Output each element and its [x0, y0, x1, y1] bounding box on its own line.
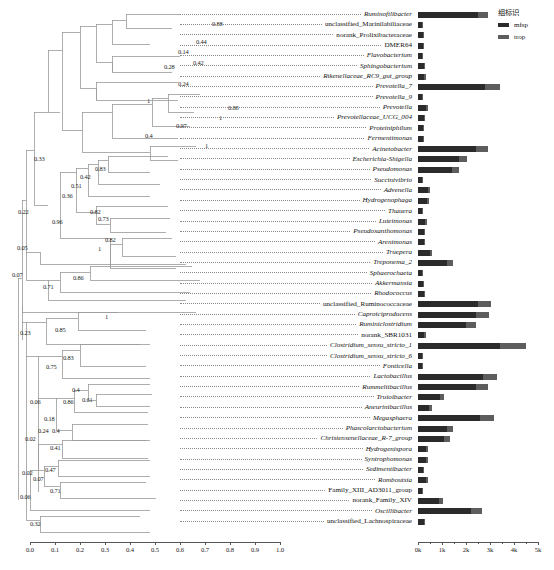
bar-segment-trop [423, 125, 424, 131]
tip-leader-line [180, 189, 381, 191]
bar-row [418, 464, 424, 475]
axis-tick [230, 542, 231, 545]
node-support-value: 0.51 [71, 183, 81, 189]
bar-row [418, 123, 424, 134]
tip-row: Rummeliibacillus [180, 382, 412, 393]
phylogenetic-tree-figure: 0.880.440.140.420.280.2410.8810.970.410.… [0, 0, 554, 570]
tip-leader-line [180, 417, 370, 419]
node-support-value: 0.07 [12, 272, 22, 278]
stacked-bar [418, 208, 423, 214]
bar-segment-mfsp [418, 477, 426, 483]
axis-tick [514, 542, 515, 545]
node-support-value: 1 [147, 98, 150, 104]
bar-segment-mfsp [418, 384, 476, 390]
tip-leader-line [180, 210, 385, 212]
tip-label: Succinivibrio [374, 177, 412, 184]
tip-label: DMER64 [384, 42, 412, 49]
bar-segment-trop [485, 84, 500, 90]
tip-label: Clostridium_sensu_stricto_6 [330, 353, 412, 360]
axis-tick-label: 0k [415, 546, 422, 553]
bar-segment-mfsp [418, 12, 478, 18]
stacked-bar [418, 291, 425, 297]
bar-segment-mfsp [418, 156, 459, 162]
tip-label: Ruminiclostridium [359, 321, 412, 328]
tip-label: Prevotella_7 [376, 83, 412, 90]
bar-row [418, 175, 423, 186]
tip-label: Aneurinibacillus [365, 404, 412, 411]
bar-segment-trop [500, 343, 526, 349]
node-support-value: 0.41 [50, 445, 60, 451]
bar-row [418, 247, 432, 258]
stacked-bar [418, 53, 423, 59]
bar-segment-trop [422, 208, 423, 214]
bar-segment-trop [440, 394, 445, 400]
bar-segment-trop [423, 281, 424, 287]
bar-row [418, 30, 424, 41]
axis-tick-label: 0.5 [151, 546, 159, 553]
stacked-bar [418, 374, 497, 380]
stacked-bar [418, 229, 425, 235]
bar-segment-trop [422, 94, 423, 100]
node-support-value: 0.96 [52, 219, 62, 225]
tip-label: Family_XIII_AD3011_group [328, 487, 412, 494]
stacked-bar [418, 457, 428, 463]
bar-segment-trop [476, 312, 489, 318]
tip-leader-line [180, 55, 364, 57]
tip-label: Sedimentibacter [366, 466, 412, 473]
bar-row [418, 195, 429, 206]
stacked-bar [418, 105, 428, 111]
tip-leader-line [180, 34, 333, 36]
node-support-value: 0.42 [80, 174, 90, 180]
tip-row: Sphingobacterium [180, 61, 412, 72]
tip-leader-line [180, 138, 364, 140]
stacked-bar [418, 426, 453, 432]
legend-item[interactable]: trop [498, 33, 554, 41]
tip-label: Proteiniphilum [369, 125, 412, 132]
stacked-bar [418, 508, 482, 514]
bar-segment-trop [459, 156, 468, 162]
bar-row [418, 309, 489, 320]
tip-label: Pseudoxanthomonas [353, 228, 412, 235]
tip-label: norank_Family_XIV [352, 497, 412, 504]
bar-segment-mfsp [418, 167, 452, 173]
axis-tick-label: 3k [487, 546, 494, 553]
bar-row [418, 216, 427, 227]
axis-tick-label: 0.9 [251, 546, 259, 553]
axis-tick-label: 1.0 [276, 546, 284, 553]
stacked-bar [418, 467, 424, 473]
tip-row: Treponema_2 [180, 257, 412, 268]
tip-row: Prevotella [180, 102, 412, 113]
node-support-value: 0.73 [98, 216, 108, 222]
bar-segment-mfsp [418, 260, 447, 266]
stacked-bar [418, 281, 424, 287]
stacked-bar [418, 312, 489, 318]
tip-row: Sphaerochaeta [180, 268, 412, 279]
tip-leader-line [180, 355, 327, 357]
legend-label: trop [514, 33, 525, 41]
bar-row [418, 61, 425, 72]
abundance-bar-chart [412, 0, 554, 540]
bar-segment-mfsp [418, 250, 430, 256]
axis-tick [442, 542, 443, 545]
bar-segment-trop [478, 301, 491, 307]
bar-segment-trop [424, 74, 425, 80]
axis-tick [205, 542, 206, 545]
legend-title: 组标识 [498, 6, 554, 17]
legend-item[interactable]: mfsp [498, 21, 554, 29]
bar-segment-mfsp [418, 84, 485, 90]
stacked-bar [418, 301, 491, 307]
node-support-value: 0.86 [63, 399, 73, 405]
tip-label: Fonticella [383, 363, 412, 370]
tip-row: Ruminofilibacter [180, 9, 412, 20]
tip-leader-line [180, 448, 363, 450]
bar-segment-trop [422, 53, 423, 59]
tip-row: Hydrogenispora [180, 444, 412, 455]
tip-leader-line [180, 76, 320, 78]
tip-leader-line [180, 438, 317, 440]
tip-leader-line [180, 262, 370, 264]
bar-row [418, 237, 425, 248]
bar-segment-trop [423, 136, 424, 142]
tip-label: Truioibacter [377, 394, 412, 401]
node-support-value: 0.61 [82, 397, 92, 403]
tip-leader-line [180, 407, 362, 409]
